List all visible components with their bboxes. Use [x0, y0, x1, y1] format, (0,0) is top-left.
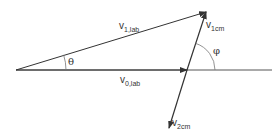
v1cm-vector [187, 12, 206, 70]
v1-lab-vector [16, 12, 206, 70]
v2cm-label: v2cm [172, 118, 190, 130]
phi-label: φ [213, 46, 220, 56]
v0-lab-label-sub: 0,lab [125, 80, 140, 87]
theta-angle-arc [64, 55, 66, 70]
v0-lab-label: v0,lab [120, 75, 140, 87]
v1cm-label-sub: 1cm [211, 25, 224, 32]
v1-lab-label-sub: 1,lab [124, 26, 139, 33]
v2cm-label-sub: 2cm [177, 123, 190, 130]
v1cm-label: v1cm [206, 20, 224, 32]
v1-lab-label: v1,lab [119, 21, 139, 33]
theta-label: θ [68, 57, 74, 67]
